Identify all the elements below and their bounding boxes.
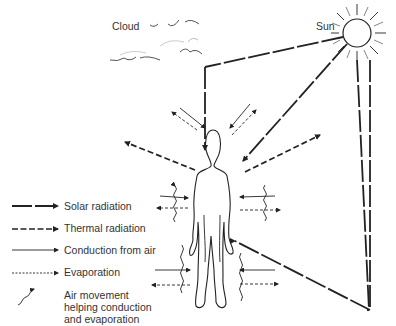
legend-solar-radiation: Solar radiation [64,200,132,212]
legend-evaporation: Evaporation [64,266,120,278]
legend-air-movement-line3: and evaporation [64,313,139,325]
body-side-arrows [152,185,280,301]
human-figure [189,130,233,308]
legend-symbols [12,206,58,305]
wavy-arrow-icon [18,289,34,305]
legend-air-movement-line1: Air movement [64,289,129,301]
legend-thermal-radiation: Thermal radiation [64,222,146,234]
solar-radiation-paths [205,37,370,310]
thermal-radiation-paths [125,135,320,172]
heat-exchange-diagram [0,0,396,326]
cloud-label: Cloud [112,20,139,32]
legend-air-movement-line2: helping conduction [64,301,152,313]
legend-conduction-from-air: Conduction from air [64,244,156,256]
sun-label: Sun [316,20,335,32]
